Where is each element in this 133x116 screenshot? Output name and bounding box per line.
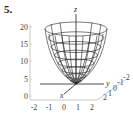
paraboloid-plot: 20 15 10 5 0 -2 -1 0 1 2 2 1 0 -1 -2 <box>0 0 133 116</box>
z-tick: 10 <box>20 57 28 66</box>
y-axis-label: y <box>105 79 110 88</box>
y-tick: 2 <box>103 93 107 102</box>
z-tick: 15 <box>20 40 28 49</box>
x-tick-labels: -2 -1 0 1 2 <box>31 103 94 112</box>
z-axis-label: z <box>73 5 78 14</box>
x-tick: -1 <box>46 103 53 112</box>
x-axis-label: x <box>59 91 64 100</box>
z-tick: 20 <box>20 23 28 32</box>
z-tick-labels: 20 15 10 5 0 <box>20 23 28 101</box>
y-tick: -2 <box>123 73 130 82</box>
z-tick: 0 <box>24 92 28 101</box>
z-tick: 5 <box>24 75 28 84</box>
x-tick: 2 <box>90 103 94 112</box>
x-tick: 1 <box>76 103 80 112</box>
x-tick: -2 <box>31 103 38 112</box>
x-tick: 0 <box>62 103 66 112</box>
x-axis <box>64 84 76 94</box>
y-tick: 1 <box>108 89 112 98</box>
